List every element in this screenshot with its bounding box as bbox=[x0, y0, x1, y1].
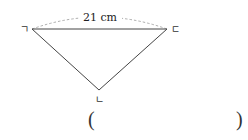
vertex-label-nieun: ㄴ bbox=[95, 94, 104, 105]
dimension-label: 21 cm bbox=[83, 11, 118, 24]
answer-open-paren: ( bbox=[88, 108, 95, 131]
vertex-label-giyeok: ㄱ bbox=[20, 24, 29, 35]
triangle bbox=[32, 29, 167, 90]
vertex-label-digeut: ㄷ bbox=[171, 24, 180, 35]
answer-blank[interactable] bbox=[100, 112, 230, 130]
answer-close-paren: ) bbox=[236, 108, 243, 131]
